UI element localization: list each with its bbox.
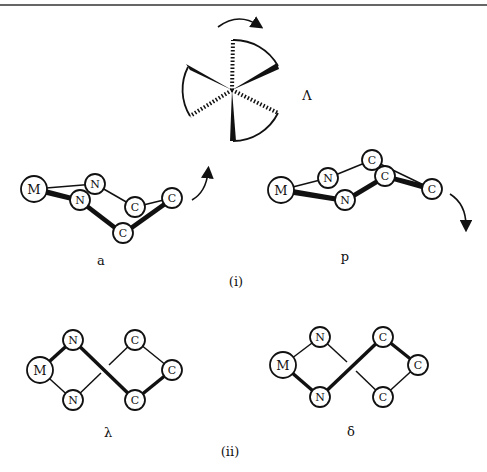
chelate-arc [233, 113, 278, 141]
hashed-bond [232, 90, 278, 113]
atom-carbon: C [414, 359, 422, 372]
atom-nitrogen: N [323, 172, 333, 185]
rotation-arrow-icon [218, 19, 258, 27]
atom-nitrogen: N [340, 194, 350, 207]
atom-carbon: C [131, 334, 139, 347]
atom-carbon: C [379, 331, 387, 344]
hashed-bond [190, 90, 232, 116]
atom-metal: M [274, 183, 287, 198]
caption-a: a [97, 253, 105, 268]
atom-carbon: C [381, 170, 389, 183]
conformation-lambda [40, 340, 172, 400]
atom-metal: M [27, 182, 40, 197]
atom-carbon: C [119, 227, 127, 240]
atom-nitrogen: N [68, 394, 78, 407]
atom-carbon: C [368, 154, 376, 167]
atom-carbon: C [131, 201, 139, 214]
atom-carbon: C [428, 183, 436, 196]
atom-carbon: C [168, 364, 176, 377]
atom-metal: M [33, 363, 46, 378]
atom-carbon: C [131, 394, 139, 407]
chelate-arc [233, 40, 278, 66]
conformation-delta [283, 337, 418, 397]
chirality-label-lambda-upper: Λ [302, 88, 311, 103]
wedge-bond [230, 90, 236, 141]
rotation-arrow-icon [450, 194, 466, 226]
newman-projection [183, 19, 279, 141]
section-label-i: (i) [229, 274, 243, 289]
rotation-arrow-icon [192, 172, 208, 200]
atom-nitrogen: N [90, 178, 100, 191]
atom-nitrogen: N [75, 194, 85, 207]
atom-carbon: C [168, 192, 176, 205]
wedge-bond [186, 64, 232, 90]
atom-metal: M [276, 358, 289, 373]
chelate-arc [183, 67, 190, 116]
atom-carbon: C [379, 391, 387, 404]
wedge-bond [232, 63, 279, 90]
atom-nitrogen: N [68, 334, 78, 347]
atom-nitrogen: N [315, 331, 325, 344]
atom-nitrogen: N [315, 391, 325, 404]
caption-delta: δ [347, 424, 355, 439]
section-label-ii: (ii) [221, 444, 239, 459]
hashed-bond [232, 40, 233, 90]
caption-p: p [341, 249, 349, 264]
caption-lambda: λ [104, 425, 112, 440]
